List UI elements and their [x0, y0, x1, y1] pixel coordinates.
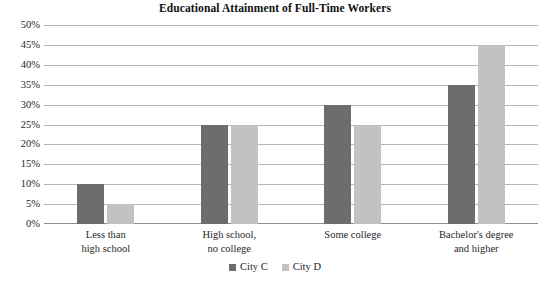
bar: [478, 45, 505, 224]
gridline: [44, 25, 538, 26]
x-category-label-line2: and higher: [415, 242, 539, 256]
y-tick-label: 50%: [0, 20, 40, 31]
y-tick-label: 40%: [0, 60, 40, 71]
y-tick-label: 45%: [0, 40, 40, 51]
plot-area: [44, 25, 538, 224]
x-category-label: High school,no college: [168, 228, 292, 256]
y-tick-label: 5%: [0, 199, 40, 210]
x-category-label: Bachelor's degreeand higher: [415, 228, 539, 256]
gridline: [44, 45, 538, 46]
legend-item[interactable]: City C: [229, 262, 268, 273]
chart-title: Educational Attainment of Full-Time Work…: [0, 2, 550, 14]
x-category-label: Some college: [291, 228, 415, 242]
x-category-label-line1: Less than: [86, 229, 126, 240]
bar: [354, 125, 381, 225]
y-tick-label: 10%: [0, 179, 40, 190]
bar: [201, 125, 228, 225]
bar: [77, 184, 104, 224]
chart-legend: City CCity D: [0, 262, 550, 273]
bar: [324, 105, 351, 224]
legend-swatch-icon: [282, 264, 289, 271]
bar: [107, 204, 134, 224]
chart-container: Educational Attainment of Full-Time Work…: [0, 0, 550, 291]
y-tick-label: 30%: [0, 99, 40, 110]
legend-label: City D: [293, 262, 321, 273]
x-category-label: Less thanhigh school: [44, 228, 168, 256]
y-tick-label: 35%: [0, 79, 40, 90]
y-axis: 50%45%40%35%30%25%20%15%10%5%0%: [0, 25, 40, 224]
legend-item[interactable]: City D: [282, 262, 321, 273]
x-category-label-line2: high school: [44, 242, 168, 256]
x-category-label-line2: no college: [168, 242, 292, 256]
bar: [231, 125, 258, 225]
legend-label: City C: [240, 262, 268, 273]
bar: [448, 85, 475, 224]
y-tick-label: 20%: [0, 139, 40, 150]
y-tick-label: 25%: [0, 119, 40, 130]
legend-swatch-icon: [229, 264, 236, 271]
x-category-label-line1: High school,: [202, 229, 256, 240]
x-category-label-line1: Some college: [324, 229, 381, 240]
gridline: [44, 65, 538, 66]
x-category-label-line1: Bachelor's degree: [439, 229, 513, 240]
y-tick-label: 15%: [0, 159, 40, 170]
y-tick-label: 0%: [0, 219, 40, 230]
x-axis: Less thanhigh schoolHigh school,no colle…: [44, 228, 538, 260]
